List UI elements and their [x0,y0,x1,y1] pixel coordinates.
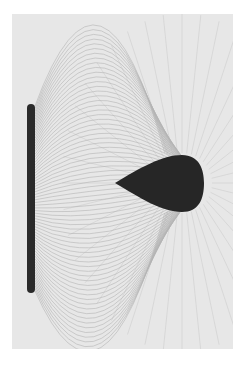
charged-bar [27,104,35,293]
field-lines-drawing [12,14,233,349]
field-line-photo [12,14,233,349]
